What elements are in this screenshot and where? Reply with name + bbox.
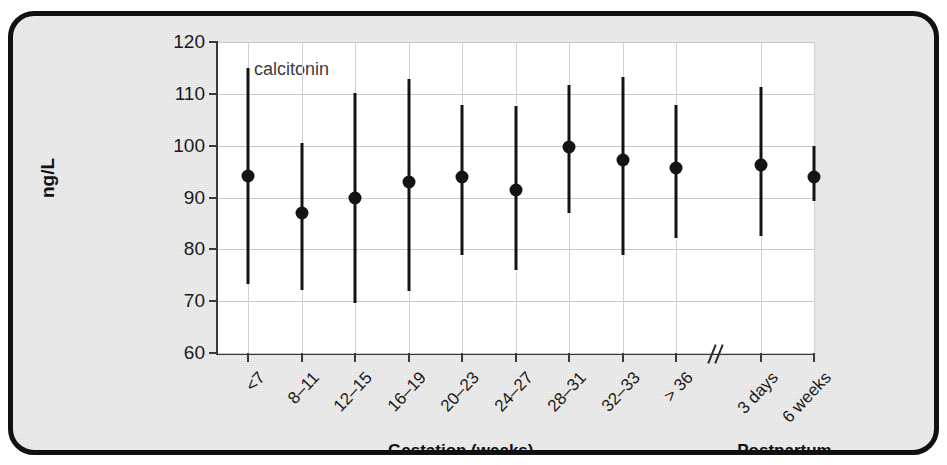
y-tick-label-90: 90: [184, 187, 205, 209]
data-point-marker: [808, 170, 821, 183]
y-tick-label-80: 80: [184, 238, 205, 260]
y-tick-label-60: 60: [184, 342, 205, 364]
data-point-marker: [670, 162, 683, 175]
data-point-marker: [509, 183, 522, 196]
x-tick-0: [247, 353, 249, 362]
x-tick-label-8: > 36: [660, 368, 698, 406]
x-tick-label-6: 28–31: [544, 368, 591, 416]
figure-frame: ng/L calcitonin 60708090100110120 <78–11…: [8, 11, 939, 455]
plot-area: calcitonin 60708090100110120 <78–1112–15…: [216, 42, 814, 355]
y-tick-label-100: 100: [173, 135, 205, 157]
y-tick-label-110: 110: [175, 83, 205, 105]
data-point-marker: [754, 158, 767, 171]
x-tick-1: [301, 353, 303, 362]
x-tick-label-3: 16–19: [383, 368, 430, 416]
x-tick-3: [408, 353, 410, 362]
y-tick-80: [209, 248, 218, 250]
series-annotation-calcitonin: calcitonin: [254, 59, 329, 80]
x-tick-2: [354, 353, 356, 362]
axis-break-icon: [709, 344, 731, 364]
y-tick-label-120: 120: [173, 31, 205, 53]
y-tick-70: [209, 300, 218, 302]
x-tick-8: [675, 353, 677, 362]
x-tick-5: [515, 353, 517, 362]
figure-root: ng/L calcitonin 60708090100110120 <78–11…: [0, 0, 947, 465]
x-tick-label-0: <7: [242, 368, 270, 396]
data-point-marker: [242, 170, 255, 183]
x-tick-label-2: 12–15: [330, 368, 377, 416]
data-point-marker: [402, 176, 415, 189]
data-point-marker: [456, 170, 469, 183]
x-tick-label-10: 6 weeks: [778, 368, 835, 427]
x-axis-group-title-gestation: Gestation (weeks): [388, 441, 534, 455]
x-tick-9: [760, 353, 762, 362]
data-point-marker: [563, 141, 576, 154]
x-tick-6: [568, 353, 570, 362]
x-axis-group-title-postpartum: Postpartum: [737, 441, 831, 455]
data-point-marker: [616, 153, 629, 166]
data-point-marker: [295, 207, 308, 220]
y-tick-110: [209, 93, 218, 95]
y-tick-120: [209, 41, 218, 43]
x-tick-label-7: 32–33: [597, 368, 644, 416]
y-tick-label-70: 70: [184, 290, 205, 312]
x-tick-label-9: 3 days: [733, 368, 782, 418]
x-tick-7: [622, 353, 624, 362]
x-tick-label-5: 24–27: [490, 368, 537, 416]
x-tick-4: [461, 353, 463, 362]
y-tick-100: [209, 145, 218, 147]
y-tick-90: [209, 197, 218, 199]
y-tick-60: [209, 352, 218, 354]
data-point-marker: [349, 191, 362, 204]
x-tick-label-1: 8–11: [284, 368, 324, 408]
x-tick-10: [813, 353, 815, 362]
x-tick-label-4: 20–23: [437, 368, 484, 416]
y-axis-title: ng/L: [37, 158, 59, 198]
